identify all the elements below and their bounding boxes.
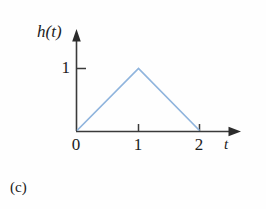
figure-caption: (c)	[10, 180, 27, 195]
x-tick-label-2: 2	[190, 136, 208, 153]
triangular-pulse-curve	[77, 69, 200, 131]
y-axis-label: h(t)	[37, 23, 62, 40]
y-tick-label-1: 1	[56, 59, 70, 76]
x-axis-arrowhead	[229, 127, 242, 136]
y-axis-arrowhead	[72, 29, 81, 42]
x-axis-label: t	[224, 137, 228, 152]
x-tick-label-1: 1	[129, 136, 147, 153]
figure-container: h(t) t 1 0 1 2 (c)	[0, 0, 266, 209]
x-tick-label-0: 0	[67, 136, 85, 153]
